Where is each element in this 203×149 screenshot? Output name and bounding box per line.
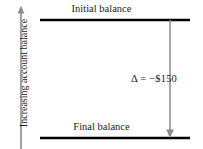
initial-balance-label: Initial balance [0, 4, 203, 15]
final-balance-label: Final balance [0, 122, 203, 133]
delta-annotation-label: Δ = −$150 [131, 74, 177, 85]
y-axis-label: Increasing account balance [19, 3, 29, 143]
account-balance-diagram: Initial balance Final balance Δ = −$150 … [0, 0, 203, 149]
